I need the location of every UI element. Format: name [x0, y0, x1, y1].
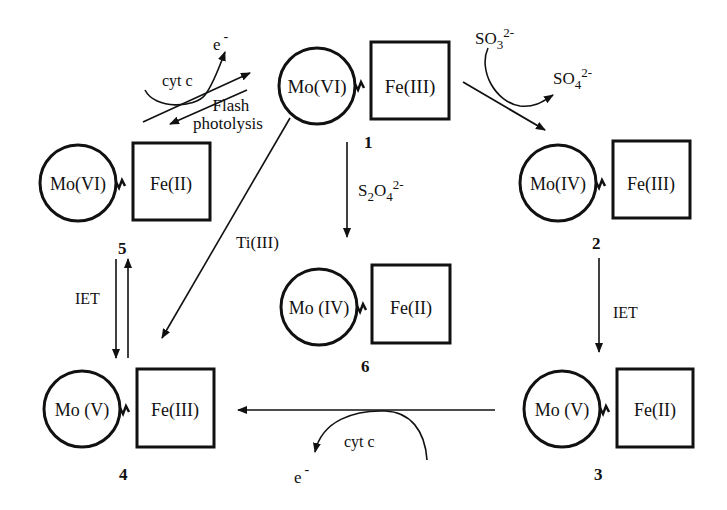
species-4: Mo (V) Fe(III) 4: [44, 369, 214, 484]
fe-label: Fe(II): [634, 400, 676, 421]
species-2: Mo(IV) Fe(III) 2: [520, 141, 690, 253]
electron-label: e-: [213, 29, 229, 54]
fe-label: Fe(III): [627, 174, 675, 195]
sulfite-label: SO32-: [475, 25, 514, 52]
species-number: 3: [594, 465, 603, 484]
fe-label: Fe(II): [390, 298, 432, 319]
mo-label: Mo(VI): [50, 174, 106, 195]
arrow-3-to-4: cyt c e-: [238, 410, 495, 487]
mo-label: Mo (V): [55, 400, 110, 421]
species-number: 6: [361, 357, 370, 376]
species-number: 1: [364, 133, 373, 152]
fe-label: Fe(III): [385, 76, 436, 98]
sulfite-curve: [485, 48, 553, 106]
species-number: 4: [119, 465, 128, 484]
mo-label: Mo(VI): [287, 76, 346, 98]
species-number: 5: [118, 239, 127, 258]
species-5: Mo(VI) Fe(II) 5: [40, 143, 210, 258]
flash-photolysis-label: Flash photolysis: [193, 96, 263, 133]
species-1: Mo(VI) Fe(III) 1: [279, 42, 449, 152]
reaction-scheme: Mo(VI) Fe(III) 1 Mo(IV) Fe(III) 2 Mo(VI)…: [0, 0, 727, 510]
mo-label: Mo (V): [535, 400, 590, 421]
arrow-1-to-6: S2O42-: [347, 142, 404, 237]
ti-label: Ti(III): [236, 233, 279, 252]
dithionite-label: S2O42-: [358, 177, 404, 204]
arrow-1-to-4: Ti(III): [162, 118, 290, 338]
iet-label: IET: [613, 304, 638, 321]
arrow-1-to-2: SO32- SO42-: [463, 25, 592, 130]
species-6: Mo (IV) Fe(II) 6: [281, 265, 450, 376]
arrow-2-to-3: IET: [599, 258, 638, 352]
fe-label: Fe(II): [150, 174, 192, 195]
mo-label: Mo (IV): [289, 298, 350, 319]
species-number: 2: [592, 234, 601, 253]
arrows-4-5: IET: [75, 259, 128, 358]
sulfate-label: SO42-: [553, 65, 592, 92]
mo-label: Mo(IV): [530, 174, 586, 195]
species-3: Mo (V) Fe(II) 3: [524, 369, 693, 484]
cyt-c-label: cyt c: [162, 72, 193, 90]
iet-label: IET: [75, 290, 100, 307]
cyt-c-label: cyt c: [344, 433, 375, 451]
electron-label: e-: [294, 462, 310, 487]
arrows-5-1: cyt c e- Flash photolysis: [143, 29, 263, 133]
fe-label: Fe(III): [151, 400, 199, 421]
